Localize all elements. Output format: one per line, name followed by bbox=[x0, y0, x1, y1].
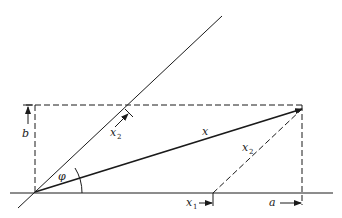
oblique-axis bbox=[18, 16, 222, 208]
label-x1: x bbox=[186, 196, 193, 209]
dashed-x2-component bbox=[213, 109, 302, 193]
label-a: a bbox=[269, 196, 276, 209]
label-b: b bbox=[22, 127, 29, 140]
label-x2-oblique-subscript: 2 bbox=[249, 148, 253, 156]
label-x2-parallel-subscript: 2 bbox=[117, 133, 121, 141]
label-vector-x: x bbox=[202, 125, 209, 138]
vector-x bbox=[35, 109, 302, 192]
angle-arc-phi bbox=[75, 168, 82, 193]
label-x1-subscript: 1 bbox=[193, 203, 197, 211]
x2-arrow bbox=[115, 114, 128, 127]
label-phi: φ bbox=[58, 170, 66, 183]
label-x2-oblique: x bbox=[242, 141, 249, 154]
label-x2-parallel: x bbox=[110, 126, 117, 139]
oblique-vector-diagram: b x 2 φ x x 2 x 1 a bbox=[0, 0, 342, 218]
